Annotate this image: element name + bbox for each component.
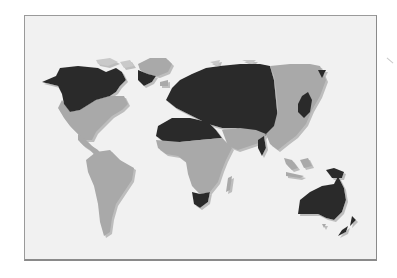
madagascar [226, 176, 232, 192]
south-africa [192, 192, 210, 208]
south-america [86, 150, 134, 236]
australia [298, 176, 346, 220]
tasmania [322, 224, 326, 228]
arctic-islands-na [96, 58, 134, 68]
world-map [0, 0, 397, 278]
iceland [160, 80, 168, 86]
new-guinea [326, 168, 344, 178]
map-canvas [0, 0, 397, 278]
southeast-asia [284, 158, 312, 178]
central-africa [156, 138, 232, 194]
new-zealand [338, 216, 356, 236]
